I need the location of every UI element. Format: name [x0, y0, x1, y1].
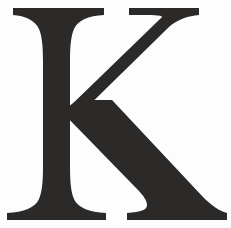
letter-glyph-canvas: Bold serif capital letter K K [0, 0, 231, 228]
letter-k-svg: Bold serif capital letter K [0, 0, 231, 228]
